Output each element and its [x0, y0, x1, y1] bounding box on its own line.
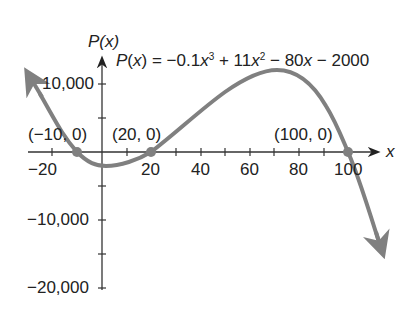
x-tick-label-100: 100 — [334, 161, 362, 178]
eq-x3: x — [304, 51, 313, 70]
eq-rest1: − 80 — [265, 51, 303, 70]
chart-figure: P(x) x P(x) = −0.1x3 + 11x2 − 80x − 2000… — [0, 0, 411, 310]
eq-x2: x — [251, 51, 260, 70]
y-axis-label: P(x) — [88, 33, 119, 50]
y-tick-label-10000: 10,000 — [42, 75, 94, 92]
x-axis-label: x — [386, 143, 395, 160]
root-label-20: (20, 0) — [112, 126, 161, 143]
eq-x1: x — [200, 51, 209, 70]
chart-svg — [0, 0, 411, 310]
polynomial-curve — [40, 70, 382, 252]
x-tick-label-20: 20 — [141, 161, 160, 178]
curve-arrow-right — [376, 232, 383, 254]
x-tick-label-neg20: −20 — [28, 161, 57, 178]
equation-label: P(x) = −0.1x3 + 11x2 − 80x − 2000 — [116, 52, 369, 69]
eq-lhs: (x) = −0.1 — [127, 51, 200, 70]
y-tick-label-neg20000: −20,000 — [27, 279, 89, 296]
eq-rest2: − 2000 — [312, 51, 369, 70]
eq-mid: + 11 — [214, 51, 251, 70]
root-label-100: (100, 0) — [274, 126, 333, 143]
curve-arrow-left — [27, 72, 42, 97]
eq-p: P — [116, 51, 127, 70]
x-tick-label-80: 80 — [289, 161, 308, 178]
x-tick-label-40: 40 — [191, 161, 210, 178]
root-point-20 — [146, 147, 156, 157]
root-point-neg10 — [72, 147, 82, 157]
root-label-neg10: (−10, 0) — [28, 126, 87, 143]
x-tick-label-60: 60 — [240, 161, 259, 178]
y-tick-label-neg10000: −10,000 — [27, 211, 89, 228]
root-point-100 — [343, 147, 353, 157]
